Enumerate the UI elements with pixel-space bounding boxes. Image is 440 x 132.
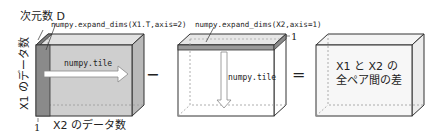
x2-slice [178, 45, 274, 50]
x1-slice [36, 45, 50, 116]
x1-data-count-label: X1 のデータ数 [17, 37, 31, 110]
depth-one-label-middle: 1 [291, 31, 297, 42]
expand-dims-x2-label: numpy.expand_dims(X2,axis=1) [195, 20, 321, 29]
tile-label-middle: numpy.tile [228, 73, 276, 82]
x2-data-count-label: X2 のデータ数 [53, 118, 126, 132]
middle-box: 1 numpy.tile [178, 27, 297, 116]
depth-one-label-left: 1 [34, 122, 40, 132]
result-box: X1 と X2 の 全ペア間の差 [316, 34, 424, 116]
broadcast-diagram: numpy.tile 1 次元数 D numpy.expand_dims(X1.… [0, 0, 440, 132]
equals-operator: = [292, 65, 305, 84]
minus-operator: − [146, 65, 159, 84]
result-label-line2: 全ペア間の差 [336, 73, 402, 87]
left-box: numpy.tile 1 [34, 23, 144, 132]
tile-label-left: numpy.tile [64, 59, 112, 68]
result-label-line1: X1 と X2 の [336, 60, 398, 73]
expand-dims-x1-label: numpy.expand_dims(X1.T,axis=2) [51, 20, 186, 29]
